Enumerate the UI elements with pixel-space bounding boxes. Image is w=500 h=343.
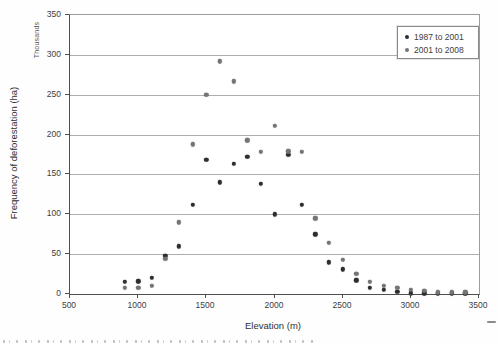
data-point	[177, 220, 181, 224]
x-tick-3000	[410, 294, 411, 298]
data-point	[177, 244, 181, 248]
data-point	[327, 241, 331, 245]
data-point	[150, 276, 154, 280]
data-point	[327, 260, 331, 264]
data-point	[245, 138, 249, 142]
data-point	[381, 288, 385, 292]
y-tick-100	[65, 213, 69, 214]
y-tick-label-300: 300	[25, 49, 61, 59]
data-point	[354, 278, 358, 282]
data-point	[218, 180, 222, 184]
data-point	[163, 257, 167, 261]
legend-marker-icon	[405, 48, 409, 52]
x-tick-label-3000: 3000	[390, 300, 430, 310]
data-point	[340, 258, 344, 262]
y-tick-50	[65, 253, 69, 254]
y-tick-label-100: 100	[25, 208, 61, 218]
y-tick-300	[65, 54, 69, 55]
data-point	[218, 59, 222, 63]
scan-artifact	[487, 321, 496, 323]
x-axis-title: Elevation (m)	[245, 320, 301, 331]
data-point	[300, 150, 304, 154]
y-tick-150	[65, 173, 69, 174]
y-axis-title: Frequency of deforestation (ha)	[8, 87, 19, 220]
data-point	[395, 289, 399, 293]
data-point	[150, 284, 154, 288]
gridline-y-50	[70, 254, 479, 255]
data-point	[300, 203, 304, 207]
data-point	[272, 124, 276, 128]
gridline-y-150	[70, 174, 479, 175]
data-point	[354, 272, 358, 276]
data-point	[122, 280, 126, 284]
y-tick-200	[65, 134, 69, 135]
x-tick-label-1500: 1500	[185, 300, 225, 310]
data-point	[395, 285, 399, 289]
x-tick-label-3500: 3500	[458, 300, 498, 310]
y-tick-label-200: 200	[25, 129, 61, 139]
scatter-chart-figure: Thousands Frequency of deforestation (ha…	[0, 0, 500, 343]
legend-item: 1987 to 2001	[403, 30, 478, 43]
data-point	[231, 162, 235, 166]
y-tick-label-250: 250	[25, 89, 61, 99]
x-tick-3500	[478, 294, 479, 298]
gridline-y-250	[70, 95, 479, 96]
data-point	[368, 280, 372, 284]
x-tick-label-2000: 2000	[254, 300, 294, 310]
y-tick-350	[65, 14, 69, 15]
gridline-y-200	[70, 135, 479, 136]
data-point	[245, 155, 249, 159]
data-point	[204, 93, 208, 97]
data-point	[231, 79, 235, 83]
legend-marker-icon	[405, 35, 409, 39]
data-point	[313, 216, 317, 220]
y-tick-label-350: 350	[25, 9, 61, 19]
legend-item: 2001 to 2008	[403, 43, 478, 56]
data-point	[259, 182, 263, 186]
data-point	[313, 232, 317, 236]
legend-label: 2001 to 2008	[414, 45, 464, 55]
x-tick-1000	[137, 294, 138, 298]
data-point	[272, 212, 276, 216]
data-point	[340, 267, 344, 271]
y-tick-label-0: 0	[25, 288, 61, 298]
data-point	[381, 284, 385, 288]
x-tick-label-500: 500	[49, 300, 89, 310]
data-point	[136, 285, 140, 289]
data-point	[204, 158, 208, 162]
legend: 1987 to 20012001 to 2008	[397, 26, 479, 59]
x-tick-2000	[274, 294, 275, 298]
y-tick-label-150: 150	[25, 168, 61, 178]
data-point	[190, 203, 194, 207]
x-tick-label-2500: 2500	[322, 300, 362, 310]
y-tick-250	[65, 94, 69, 95]
data-point	[259, 150, 263, 154]
data-point	[368, 285, 372, 289]
x-tick-2500	[342, 294, 343, 298]
x-tick-500	[69, 294, 70, 298]
data-point	[136, 279, 140, 283]
x-tick-1500	[205, 294, 206, 298]
y-tick-label-50: 50	[25, 248, 61, 258]
data-point	[190, 142, 194, 146]
legend-label: 1987 to 2001	[414, 32, 464, 42]
x-tick-label-1000: 1000	[117, 300, 157, 310]
data-point	[122, 285, 126, 289]
